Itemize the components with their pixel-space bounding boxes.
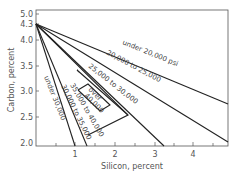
y-tick-3.5: 3.5 xyxy=(20,62,33,71)
y-tick-2.5: 2.5 xyxy=(20,113,33,122)
strength-chart: 5.0 4.3 4.0 3.5 3.0 2.5 2.0 1 2 3 4 Sili… xyxy=(0,0,230,172)
plot-frame xyxy=(36,10,228,146)
y-tick-5.0: 5.0 xyxy=(20,10,33,19)
x-axis xyxy=(56,142,213,146)
y-tick-2.0: 2.0 xyxy=(20,139,33,148)
y-tick-4.3: 4.3 xyxy=(20,20,33,29)
x-tick-3: 3 xyxy=(152,150,157,159)
x-tick-4: 4 xyxy=(190,150,195,159)
x-axis-title: Silicon, percent xyxy=(101,162,163,171)
x-tick-1: 1 xyxy=(72,150,77,159)
y-axis-title: Carbon, percent xyxy=(7,48,16,113)
x-tick-2: 2 xyxy=(112,150,117,159)
y-tick-3.0: 3.0 xyxy=(20,87,33,96)
y-tick-4.0: 4.0 xyxy=(20,36,33,45)
